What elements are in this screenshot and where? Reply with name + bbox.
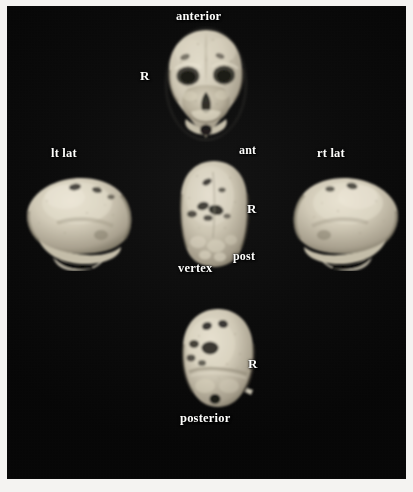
label-posterior: posterior <box>180 412 230 425</box>
right-lateral-skull-view <box>290 171 406 271</box>
label-anterior: anterior <box>176 10 221 23</box>
ct-reconstruction-image: anterior R lt lat ant rt lat R post vert… <box>7 6 406 479</box>
label-post: post <box>233 250 255 263</box>
left-lateral-skull-view <box>17 171 137 271</box>
label-lt-lat: lt lat <box>51 147 77 160</box>
anterior-skull-view <box>163 26 249 142</box>
side-marker-posterior-right: R <box>248 357 257 370</box>
figure-plate: anterior R lt lat ant rt lat R post vert… <box>0 0 413 492</box>
side-marker-anterior-right: R <box>140 69 149 82</box>
label-ant: ant <box>239 144 256 157</box>
posterior-skull-view <box>177 306 259 410</box>
label-rt-lat: rt lat <box>317 147 345 160</box>
label-vertex: vertex <box>178 262 213 275</box>
side-marker-vertex-right: R <box>247 202 256 215</box>
